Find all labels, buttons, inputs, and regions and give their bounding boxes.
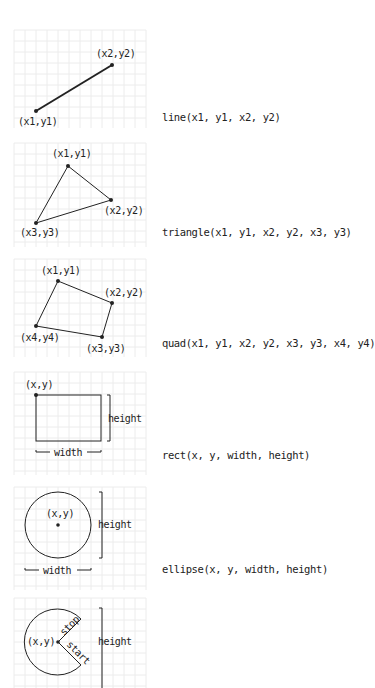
label-xy: (x,y)	[25, 379, 53, 390]
point-xy	[56, 523, 60, 527]
height-label: height	[98, 636, 132, 647]
point-x1y1	[34, 109, 38, 113]
rect-diagram: (x,y) height width	[14, 372, 146, 475]
height-label: height	[98, 519, 132, 530]
label-x3y3: (x3,y3)	[86, 343, 125, 354]
label-x2y2: (x2,y2)	[104, 287, 143, 298]
quad-diagram: (x1,y1) (x2,y2) (x3,y3) (x4,y4)	[14, 259, 146, 357]
line-diagram: (x2,y2) (x1,y1)	[14, 30, 146, 128]
grid	[14, 30, 146, 128]
label-x1y1: (x1,y1)	[18, 116, 57, 127]
function-label-line: line(x1, y1, x2, y2)	[162, 111, 280, 123]
width-label: width	[54, 447, 82, 458]
arc-diagram: (x,y) stop start height	[14, 598, 146, 688]
point-xy	[56, 640, 60, 644]
label-xy: (x,y)	[27, 636, 55, 647]
point-x1y1	[66, 164, 70, 168]
function-label-quad: quad(x1, y1, x2, y2, x3, y3, x4, y4)	[162, 337, 375, 349]
stop-label: stop	[58, 613, 82, 637]
width-label: width	[43, 565, 71, 576]
function-label-rect: rect(x, y, width, height)	[162, 449, 310, 461]
function-label-triangle: triangle(x1, y1, x2, y2, x3, y3)	[162, 226, 352, 238]
point-x3y3	[34, 221, 38, 225]
point-x2y2	[109, 198, 113, 202]
point-x1y1	[56, 279, 60, 283]
point-x4y4	[34, 324, 38, 328]
label-xy: (x,y)	[46, 508, 74, 519]
label-x1y1: (x1,y1)	[52, 148, 91, 159]
point-x2y2	[110, 301, 114, 305]
label-x2y2: (x2,y2)	[96, 48, 135, 59]
function-label-ellipse: ellipse(x, y, width, height)	[162, 563, 328, 575]
height-label: height	[108, 413, 142, 424]
point-x3y3	[100, 335, 104, 339]
ellipse-diagram: (x,y) height width	[14, 487, 146, 590]
label-x4y4: (x4,y4)	[20, 332, 59, 343]
triangle-diagram: (x1,y1) (x2,y2) (x3,y3)	[14, 143, 146, 247]
label-x2y2: (x2,y2)	[104, 205, 143, 216]
label-x3y3: (x3,y3)	[20, 227, 59, 238]
point-xy	[34, 393, 38, 397]
label-x1y1: (x1,y1)	[41, 265, 80, 276]
point-x2y2	[110, 63, 114, 67]
